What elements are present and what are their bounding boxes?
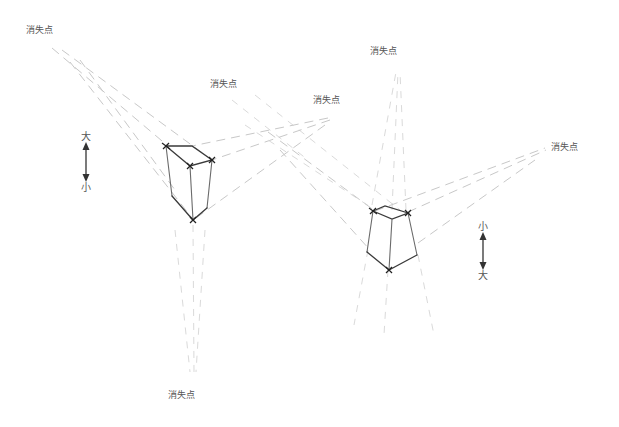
left-size-arrow xyxy=(83,142,90,182)
left-box-guides xyxy=(52,48,400,372)
size-label-large: 大 xyxy=(478,271,488,281)
left-box xyxy=(162,143,215,223)
vanishing-point-label-bottom: 消失点 xyxy=(168,391,195,400)
perspective-diagram: 消失点 消失点 消失点 消失点 消失点 消失点 大 小 小 大 xyxy=(0,0,619,427)
right-box xyxy=(367,206,417,273)
size-label-small: 小 xyxy=(81,183,91,193)
right-box-guides xyxy=(268,72,546,335)
size-label-small: 小 xyxy=(478,222,488,232)
size-label-large: 大 xyxy=(81,132,91,142)
vanishing-point-label-top: 消失点 xyxy=(370,47,397,56)
right-size-arrow xyxy=(480,232,487,270)
vanishing-point-label-top-right: 消失点 xyxy=(313,96,340,105)
vanishing-point-label-right: 消失点 xyxy=(551,143,578,152)
perspective-drawing xyxy=(0,0,619,427)
vanishing-point-label-top-middle: 消失点 xyxy=(210,80,237,89)
vanishing-point-label-top-left: 消失点 xyxy=(26,26,53,35)
